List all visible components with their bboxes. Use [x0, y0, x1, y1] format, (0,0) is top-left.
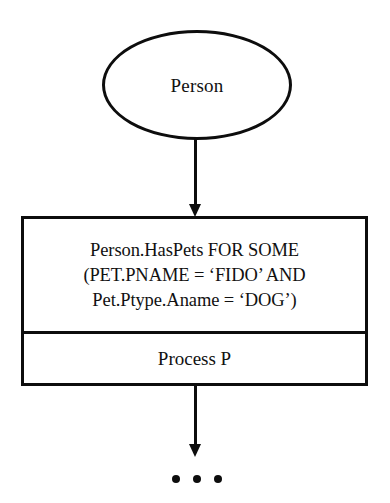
connector-person-to-box-arrow — [194, 134, 197, 218]
arrowhead-down-icon — [189, 444, 201, 457]
condition-line-3: Pet.Ptype.Aname = ‘DOG’) — [92, 288, 296, 313]
continuation-ellipsis-icon — [172, 470, 222, 488]
start-node-label: Person — [171, 76, 224, 95]
connector-line — [194, 134, 197, 206]
flowchart-canvas: Person Person.HasPets FOR SOME (PET.PNAM… — [0, 0, 390, 503]
start-node-person: Person — [102, 30, 292, 140]
ellipsis-dot — [172, 475, 180, 483]
ellipsis-dot — [193, 475, 201, 483]
condition-cell: Person.HasPets FOR SOME (PET.PNAME = ‘FI… — [24, 219, 365, 334]
process-cell: Process P — [24, 334, 365, 383]
process-box: Person.HasPets FOR SOME (PET.PNAME = ‘FI… — [21, 216, 368, 386]
connector-box-to-continuation-arrow — [194, 384, 197, 460]
ellipsis-dot — [214, 475, 222, 483]
process-cell-label: Process P — [158, 349, 231, 368]
connector-line — [194, 384, 197, 446]
condition-line-1: Person.HasPets FOR SOME — [90, 238, 299, 263]
condition-line-2: (PET.PNAME = ‘FIDO’ AND — [83, 263, 305, 288]
